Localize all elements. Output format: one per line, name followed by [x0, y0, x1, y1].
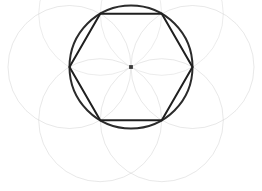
- figure-background: [0, 0, 262, 191]
- center-point-marker: [129, 65, 133, 69]
- figure-canvas: Hexagon inscribed in circle with surroun…: [0, 0, 262, 191]
- geometry-diagram: Hexagon inscribed in circle with surroun…: [0, 0, 262, 191]
